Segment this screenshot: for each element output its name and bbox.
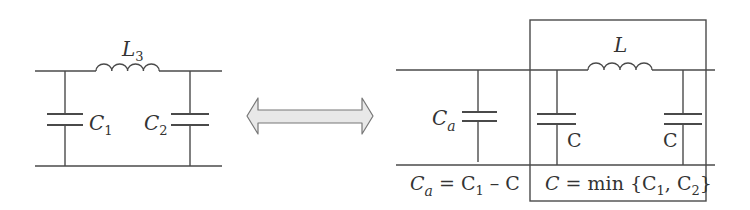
label-l3: L3 (121, 37, 144, 64)
label-c2: C2 (144, 111, 168, 138)
label-c1: C1 (89, 111, 113, 138)
right-equivalent-network: Ca L C C Ca = C1 – C C = min {C1, C2} (396, 20, 715, 201)
inductor-l-icon (588, 63, 652, 70)
inductor-l3-icon (96, 64, 159, 71)
equation-c-min: C = min {C1, C2} (545, 172, 712, 198)
equation-ca: Ca = C1 – C (410, 172, 520, 199)
circuit-diagram: L3 C1 C2 Ca L C C Ca = C1 – C C = mi (0, 0, 750, 210)
double-arrow-icon (247, 98, 373, 134)
label-ca: Ca (432, 106, 456, 134)
label-c-right: C (663, 129, 678, 151)
label-c-left: C (567, 129, 582, 151)
left-pi-network: L3 C1 C2 (35, 37, 222, 166)
label-l: L (613, 33, 627, 57)
